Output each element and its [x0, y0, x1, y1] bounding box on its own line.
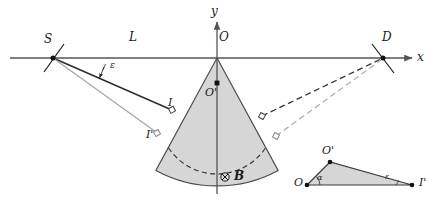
label-y-axis: y — [211, 4, 218, 18]
label-point-Iprime: I' — [146, 128, 153, 141]
inset-triangle-shape — [307, 162, 412, 185]
inset-vertex-O — [305, 183, 310, 188]
label-segment-L: L — [129, 30, 137, 44]
inset-vertex-Iprime — [410, 183, 415, 188]
inset-vertex-Oprime — [328, 160, 333, 165]
label-inset-vertex-Iprime: I' — [419, 176, 426, 189]
point-marker-Oprime — [215, 81, 220, 86]
label-inset-angle-alpha: α — [317, 173, 322, 182]
label-origin-O: O — [219, 30, 229, 44]
ray-source-to-Iprime — [53, 58, 158, 134]
label-angle-epsilon: ε — [110, 60, 115, 70]
ray-exit-primary-to-D — [262, 59, 381, 116]
label-inset-vertex-O: O — [294, 176, 303, 189]
physics-diagram: S L O D x y O' I I' ε B O O' I' α ε — [0, 0, 441, 212]
label-x-axis: x — [417, 50, 424, 64]
ray-exit-secondary-to-D — [276, 60, 381, 136]
exit-rays — [262, 59, 381, 136]
label-point-S: S — [44, 32, 52, 46]
point-marker-exit-primary — [258, 112, 265, 119]
epsilon-angle-tick — [103, 64, 106, 70]
label-inset-angle-epsilon: ε — [385, 172, 389, 181]
label-point-D: D — [382, 30, 392, 44]
label-inset-vertex-Oprime: O' — [322, 144, 334, 157]
label-field-B: B — [234, 169, 244, 183]
label-point-Oprime: O' — [205, 86, 217, 99]
label-point-I: I — [168, 96, 172, 109]
